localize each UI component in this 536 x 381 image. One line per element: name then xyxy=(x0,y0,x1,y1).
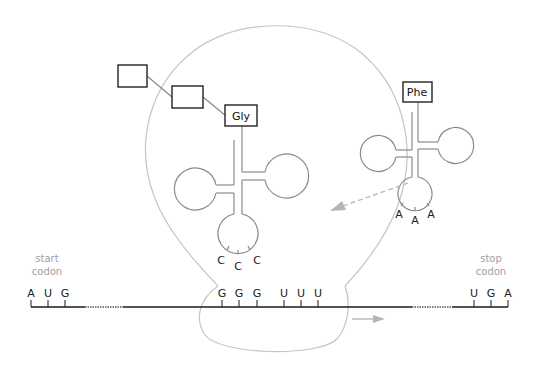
svg-text:U: U xyxy=(314,287,322,300)
trna-incoming xyxy=(360,102,473,211)
svg-text:U: U xyxy=(44,287,52,300)
trna-p-site xyxy=(174,126,308,254)
start-codon-label-line2: codon xyxy=(32,266,62,277)
translation-diagram: A U G G G G U U U U G A start codon stop… xyxy=(0,0,536,381)
svg-text:U: U xyxy=(297,287,305,300)
direction-arrow-icon xyxy=(352,315,385,323)
peptide-box-1 xyxy=(118,65,147,87)
amino-acid-gly-label: Gly xyxy=(232,110,251,123)
a-site-codon: U U U xyxy=(280,287,322,300)
anticodon-ccc: C C C xyxy=(217,254,261,273)
svg-text:U: U xyxy=(470,287,478,300)
peptide-box-2 xyxy=(172,86,203,108)
p-site-codon: G G G xyxy=(218,287,262,300)
svg-text:A: A xyxy=(411,214,419,227)
svg-text:G: G xyxy=(253,287,262,300)
stop-codon-label-line1: stop xyxy=(480,253,502,264)
mrna-strand xyxy=(31,300,508,307)
svg-text:U: U xyxy=(280,287,288,300)
amino-acid-phe-label: Phe xyxy=(407,86,428,99)
start-codon: A U G xyxy=(27,287,69,300)
svg-text:G: G xyxy=(61,287,70,300)
svg-text:C: C xyxy=(234,260,242,273)
svg-text:G: G xyxy=(218,287,227,300)
stop-codon-label-line2: codon xyxy=(476,266,506,277)
entry-arrow-icon xyxy=(330,183,408,211)
stop-codon: U G A xyxy=(470,287,512,300)
ribosome-large-subunit xyxy=(146,26,407,286)
svg-text:C: C xyxy=(217,254,225,267)
svg-text:A: A xyxy=(504,287,512,300)
start-codon-label-line1: start xyxy=(35,253,58,264)
svg-text:C: C xyxy=(253,254,261,267)
svg-text:A: A xyxy=(427,208,435,221)
svg-text:G: G xyxy=(487,287,496,300)
svg-text:G: G xyxy=(235,287,244,300)
svg-text:A: A xyxy=(27,287,35,300)
svg-text:A: A xyxy=(395,208,403,221)
